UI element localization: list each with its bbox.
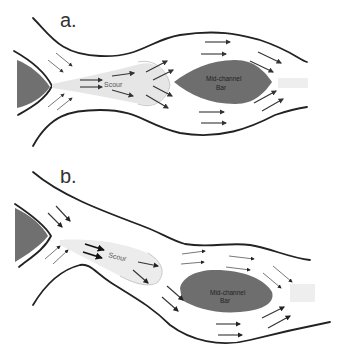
scour-zone-b xyxy=(60,240,162,285)
downstream-fade-a xyxy=(278,78,308,88)
bar-label-a-line2: Bar xyxy=(216,84,227,91)
panel-b-diagram: b. Scour Mid-channel Bar xyxy=(0,170,339,355)
bar-label-b-line2: Bar xyxy=(220,297,231,304)
bar-label-a-line1: Mid-channel xyxy=(206,75,242,82)
upstream-bar xyxy=(17,60,50,108)
scour-label-a: Scour xyxy=(104,81,123,88)
panel-a-label: a. xyxy=(60,9,77,31)
flow-arrows-b xyxy=(45,206,292,335)
panel-a-diagram: a. Scour Mid-channel Bar xyxy=(0,0,339,170)
downstream-fade-b xyxy=(290,284,315,302)
panel-a: a. Scour Mid-channel Bar xyxy=(0,0,339,170)
bottom-bank-a xyxy=(33,107,307,146)
panel-b: b. Scour Mid-channel Bar xyxy=(0,170,339,355)
panel-b-label: b. xyxy=(60,170,77,187)
mid-channel-bar-a xyxy=(174,60,272,104)
bar-label-b-line1: Mid-channel xyxy=(210,289,246,296)
